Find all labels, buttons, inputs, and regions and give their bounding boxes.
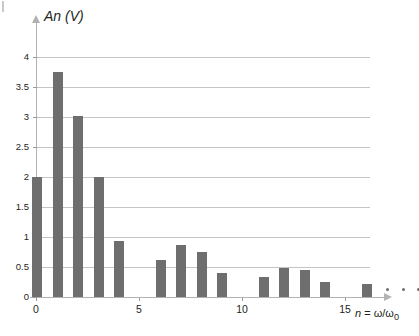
x-axis-line <box>30 297 386 298</box>
bar-n7 <box>176 245 186 297</box>
y-tick-label: 3.5 <box>3 81 29 92</box>
x-axis-title-ratio: ω/ω <box>374 307 394 319</box>
x-tick-mark <box>139 298 140 301</box>
y-tick-mark <box>33 87 37 88</box>
y-axis-arrowhead-icon <box>32 15 40 23</box>
bar-chart-plot: An (V) n = ω/ω0 00.511.522.533.54 051015 <box>0 0 419 336</box>
bar-n0 <box>32 177 42 297</box>
y-tick-label: 4 <box>3 51 29 62</box>
y-tick-label: 2 <box>3 171 29 182</box>
gridline <box>37 237 370 238</box>
y-tick-label: 2.5 <box>3 141 29 152</box>
bar-n2 <box>73 116 83 297</box>
bar-n1 <box>53 72 63 297</box>
y-tick-label: 0 <box>3 291 29 302</box>
gridline <box>37 177 370 178</box>
x-axis-title-subscript: 0 <box>394 312 399 322</box>
y-tick-label: 3 <box>3 111 29 122</box>
bar-n9 <box>217 273 227 297</box>
gridline <box>37 147 370 148</box>
y-tick-mark <box>33 147 37 148</box>
x-tick-label: 10 <box>230 303 254 315</box>
x-tick-label: 5 <box>127 303 151 315</box>
bar-n16 <box>362 284 372 297</box>
y-axis-title: An (V) <box>44 8 84 24</box>
x-tick-label: 15 <box>333 303 357 315</box>
bar-n11 <box>259 277 269 297</box>
figure-canvas: An (V) n = ω/ω0 00.511.522.533.54 051015 <box>0 0 419 336</box>
gridline <box>37 57 370 58</box>
x-axis-title-equals: = <box>361 307 374 319</box>
y-tick-label: 1 <box>3 231 29 242</box>
bar-n3 <box>94 177 104 297</box>
ellipsis-dot-1 <box>386 288 389 291</box>
x-tick-mark <box>242 298 243 301</box>
gridline <box>37 117 370 118</box>
ellipsis-dot-2 <box>402 288 405 291</box>
bar-n4 <box>114 241 124 297</box>
bar-n8 <box>197 252 207 297</box>
bar-n6 <box>156 260 166 297</box>
y-tick-mark <box>33 57 37 58</box>
x-tick-label: 0 <box>24 303 48 315</box>
bar-n14 <box>320 282 330 297</box>
y-tick-label: 0.5 <box>3 261 29 272</box>
x-tick-mark <box>36 298 37 301</box>
gridline <box>37 87 370 88</box>
x-tick-mark <box>345 298 346 301</box>
gridline <box>37 207 370 208</box>
y-tick-label: 1.5 <box>3 201 29 212</box>
x-axis-title: n = ω/ω0 <box>355 307 399 322</box>
bar-n12 <box>279 268 289 297</box>
bar-n13 <box>300 270 310 297</box>
y-tick-mark <box>33 117 37 118</box>
x-axis-arrowhead-icon <box>384 293 392 301</box>
